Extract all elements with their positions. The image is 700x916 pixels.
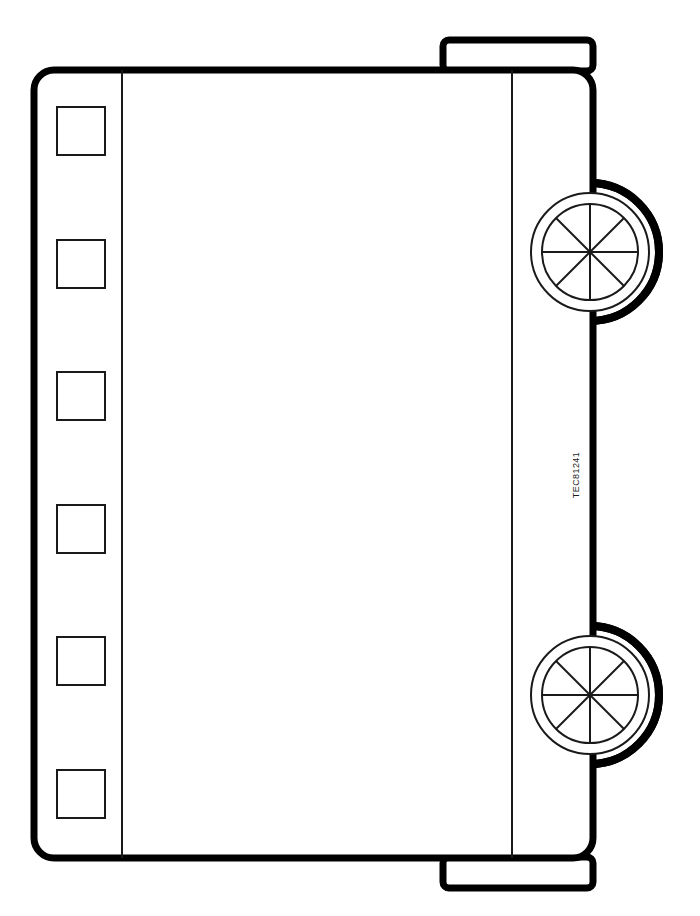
top-coupler-plate: [443, 40, 593, 71]
main-body-shell: [34, 70, 593, 858]
bottom-coupler-plate: [443, 857, 593, 888]
wheel-lower-spokes: [542, 647, 638, 743]
part-number-label: TEC81241: [571, 452, 581, 498]
technical-drawing: TEC81241: [0, 0, 700, 916]
window-panel-3: [57, 372, 105, 420]
diagram-canvas: TEC81241: [0, 0, 700, 916]
window-panel-2: [57, 240, 105, 288]
window-panel-6: [57, 770, 105, 818]
window-panel-4: [57, 505, 105, 553]
window-panel-5: [57, 637, 105, 685]
window-panel-1: [57, 107, 105, 155]
wheel-upper-spokes: [542, 204, 638, 300]
